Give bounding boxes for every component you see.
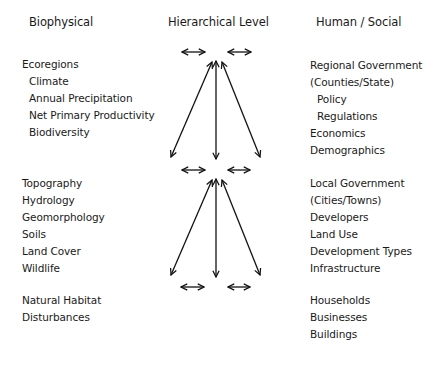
double-arrow-icon — [171, 180, 212, 275]
double-arrow-icon — [222, 180, 260, 275]
hierarchy-arrows — [0, 0, 436, 365]
double-arrow-icon — [222, 62, 260, 157]
double-arrow-icon — [171, 62, 212, 157]
